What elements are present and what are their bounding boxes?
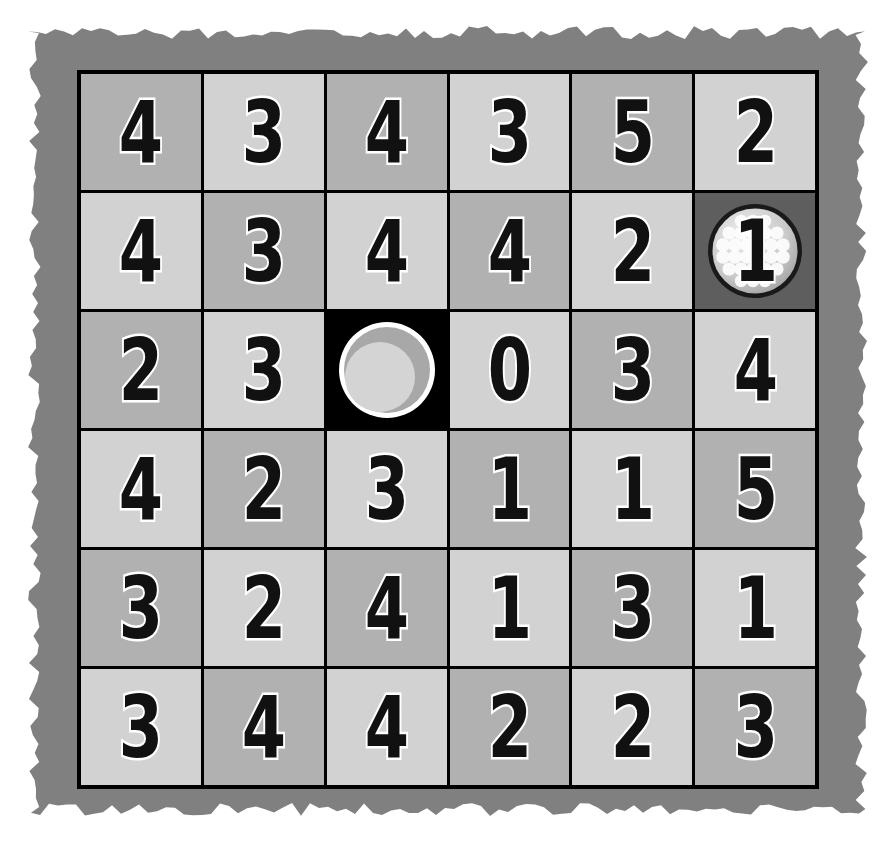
grid-cell-r5c4[interactable]: 1 [450,550,570,666]
grid-cell-r6c6[interactable]: 3 [695,669,815,785]
grid-cell-r2c3[interactable]: 4 [327,193,447,309]
grid-cell-r2c2[interactable]: 3 [204,193,324,309]
cell-number: 3 [119,684,163,770]
grid-cell-r5c6[interactable]: 1 [695,550,815,666]
cell-number: 3 [610,327,654,413]
grid-cell-r1c3[interactable]: 4 [327,74,447,190]
cell-number: 3 [242,89,286,175]
grid-cell-r5c1[interactable]: 3 [81,550,201,666]
cell-number: 1 [488,446,532,532]
cell-number: 5 [610,89,654,175]
cell-number: 2 [488,684,532,770]
cell-number: 3 [365,446,409,532]
cell-number: 2 [119,327,163,413]
cell-number: 2 [610,208,654,294]
cell-number: 2 [242,446,286,532]
grid-cell-r1c4[interactable]: 3 [450,74,570,190]
number-grid: 43435243442123034423115324131344223 [81,74,815,785]
grid-cell-r4c4[interactable]: 1 [450,431,570,547]
grid-cell-r1c5[interactable]: 5 [572,74,692,190]
cell-number: 4 [365,89,409,175]
cell-number: 4 [119,208,163,294]
cell-number: 3 [610,565,654,651]
grid-cell-r3c3[interactable] [327,312,447,428]
grid-cell-r6c5[interactable]: 2 [572,669,692,785]
cell-number: 1 [733,565,777,651]
cell-number: 0 [488,327,532,413]
cell-number: 5 [733,446,777,532]
cell-number: 4 [488,208,532,294]
grid-cell-r3c4[interactable]: 0 [450,312,570,428]
cell-number: 3 [733,684,777,770]
cell-number: 4 [119,446,163,532]
cell-number: 3 [242,208,286,294]
grid-cell-r3c2[interactable]: 3 [204,312,324,428]
cell-number: 4 [365,684,409,770]
grid-cell-r4c1[interactable]: 4 [81,431,201,547]
grid-cell-r6c2[interactable]: 4 [204,669,324,785]
grid-cell-r6c1[interactable]: 3 [81,669,201,785]
grid-cell-r2c4[interactable]: 4 [450,193,570,309]
grid-cell-r3c1[interactable]: 2 [81,312,201,428]
cell-number: 4 [365,208,409,294]
grid-cell-r3c6[interactable]: 4 [695,312,815,428]
grid-cell-r4c6[interactable]: 5 [695,431,815,547]
grid-cell-r5c3[interactable]: 4 [327,550,447,666]
cell-number: 2 [242,565,286,651]
cell-number: 4 [365,565,409,651]
grid-cell-r2c1[interactable]: 4 [81,193,201,309]
grid-frame: 43435243442123034423115324131344223 [77,70,819,789]
grid-cell-r1c6[interactable]: 2 [695,74,815,190]
grid-cell-r2c5[interactable]: 2 [572,193,692,309]
grid-cell-r5c5[interactable]: 3 [572,550,692,666]
cell-number: 3 [488,89,532,175]
grid-cell-r4c2[interactable]: 2 [204,431,324,547]
golf-grid-board: 43435243442123034423115324131344223 [0,0,894,841]
golf-hole-icon [333,316,441,424]
grid-cell-r4c5[interactable]: 1 [572,431,692,547]
grid-cell-r6c4[interactable]: 2 [450,669,570,785]
cell-number: 1 [488,565,532,651]
grid-cell-r1c1[interactable]: 4 [81,74,201,190]
grid-cell-r5c2[interactable]: 2 [204,550,324,666]
cell-number: 4 [242,684,286,770]
cell-number: 4 [733,327,777,413]
cell-number: 1 [610,446,654,532]
grid-cell-r3c5[interactable]: 3 [572,312,692,428]
cell-number: 4 [119,89,163,175]
cell-number: 2 [610,684,654,770]
grid-cell-r1c2[interactable]: 3 [204,74,324,190]
grid-cell-r2c6[interactable]: 1 [695,193,815,309]
cell-number: 1 [733,208,777,294]
grid-cell-r6c3[interactable]: 4 [327,669,447,785]
cell-number: 3 [242,327,286,413]
grid-cell-r4c3[interactable]: 3 [327,431,447,547]
cell-number: 3 [119,565,163,651]
cell-number: 2 [733,89,777,175]
